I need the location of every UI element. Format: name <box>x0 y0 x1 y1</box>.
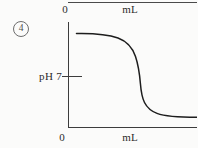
x-axis-zero-label: 0 <box>55 131 69 144</box>
previous-chart-x-axis-label: mL <box>112 3 148 16</box>
y-axis-line <box>68 22 69 128</box>
titration-curve-figure: 0 mL 4 pH 7 0 mL <box>0 0 197 148</box>
y-axis-tick-label: pH 7 <box>24 69 62 83</box>
previous-chart-x-zero-label: 0 <box>58 3 72 16</box>
option-number-marker: 4 <box>13 21 29 37</box>
x-axis-label: mL <box>112 131 148 144</box>
titration-curve-path <box>77 33 198 117</box>
x-axis-line <box>68 127 197 128</box>
ph-seven-tick-mark <box>62 76 82 77</box>
